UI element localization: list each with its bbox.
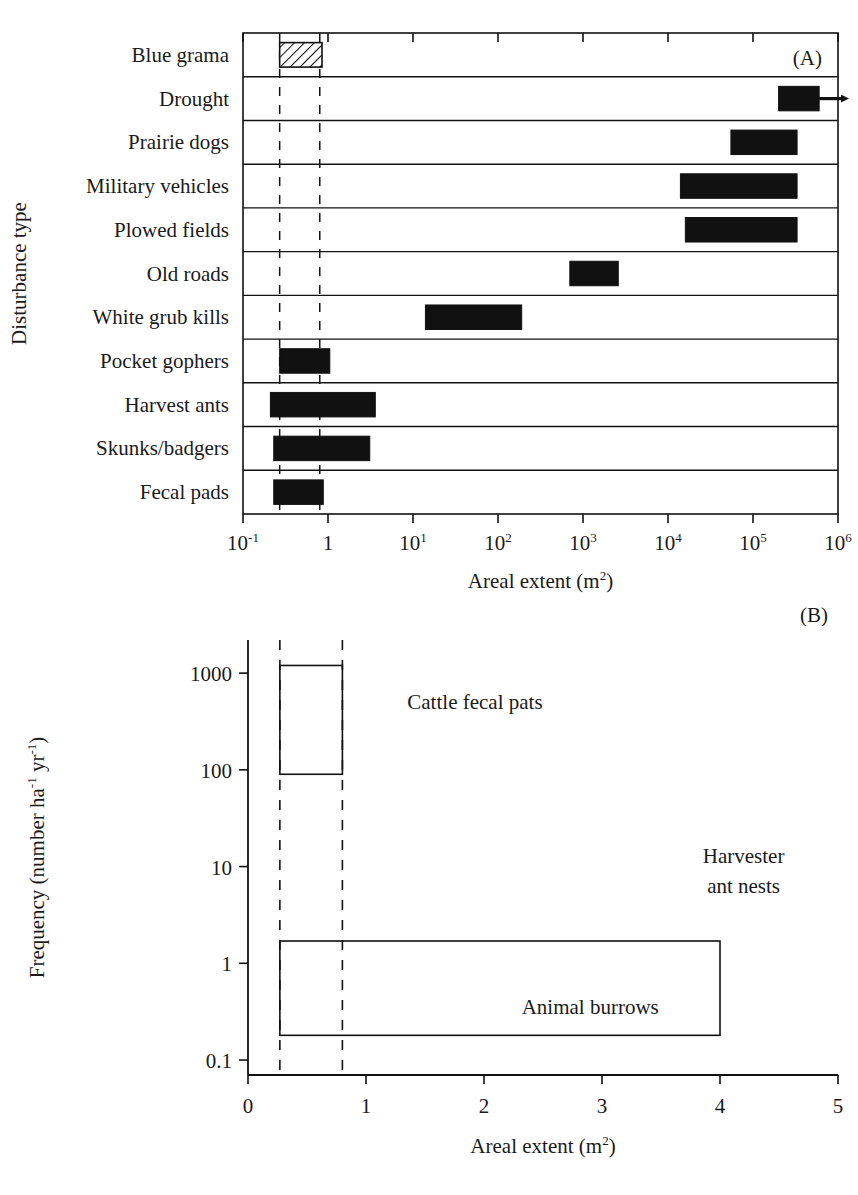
y-tick-label-4: 1000 (190, 662, 232, 686)
panel-b-yaxis-title: Frequency (number ha-1 yr-1) (24, 737, 49, 979)
category-label-7: Pocket gophers (100, 349, 229, 373)
bar-white-grub-kills (425, 305, 521, 329)
y-tick-label-0: 0.1 (206, 1049, 232, 1073)
x-tick-label: 1 (323, 531, 334, 555)
box-animal-burrows (280, 941, 720, 1035)
bar-skunks-badgers (274, 436, 370, 460)
bar-military-vehicles (680, 174, 797, 198)
category-label-2: Prairie dogs (128, 130, 229, 154)
bar-old-roads (570, 261, 618, 285)
x-tick-label: 10-1 (227, 530, 259, 555)
x-tick-label: 105 (739, 530, 767, 555)
panel-a-label: (A) (793, 46, 822, 70)
panel-a: 10-11101102103104105106Blue gramaDrought… (7, 33, 852, 593)
category-label-5: Old roads (147, 262, 229, 286)
category-label-9: Skunks/badgers (96, 436, 229, 460)
x-tick-label-3: 3 (597, 1094, 608, 1118)
figure-container: 10-11101102103104105106Blue gramaDrought… (0, 0, 858, 1195)
x-tick-label-5: 5 (833, 1094, 844, 1118)
bar-drought (779, 86, 820, 110)
category-label-6: White grub kills (93, 305, 229, 329)
bar-blue-grama (280, 43, 322, 67)
bar-harvest-ants (270, 392, 375, 416)
category-label-4: Plowed fields (114, 218, 229, 242)
x-tick-label: 103 (569, 530, 597, 555)
scientific-figure: 10-11101102103104105106Blue gramaDrought… (0, 0, 858, 1195)
y-tick-label-2: 10 (211, 856, 232, 880)
bar-fecal-pads (274, 480, 324, 504)
annotation-0: Harvester (703, 844, 785, 868)
x-tick-label: 106 (824, 530, 852, 555)
category-label-0: Blue grama (132, 43, 230, 67)
bar-pocket-gophers (280, 349, 330, 373)
bar-prairie-dogs (731, 130, 797, 154)
box-cattle-fecal-pats (280, 665, 343, 774)
box-label-0: Cattle fecal pats (407, 690, 542, 714)
x-tick-label: 101 (399, 530, 427, 555)
y-tick-label-1: 1 (222, 952, 233, 976)
panel-b: 0.11101001000012345Cattle fecal patsAnim… (24, 603, 843, 1158)
bar-plowed-fields (685, 218, 797, 242)
x-tick-label-4: 4 (715, 1094, 726, 1118)
x-tick-label-0: 0 (243, 1094, 254, 1118)
category-label-8: Harvest ants (125, 393, 229, 417)
box-label-1: Animal burrows (522, 995, 659, 1019)
annotation-0: ant nests (707, 874, 780, 898)
panel-a-xaxis-title: Areal extent (m2) (468, 568, 613, 593)
x-tick-label: 104 (654, 530, 682, 555)
category-label-10: Fecal pads (140, 480, 229, 504)
category-label-3: Military vehicles (86, 174, 229, 198)
panel-b-label: (B) (800, 603, 828, 627)
x-tick-label-2: 2 (479, 1094, 490, 1118)
x-tick-label: 102 (484, 530, 512, 555)
y-tick-label-3: 100 (201, 759, 233, 783)
x-tick-label-1: 1 (361, 1094, 372, 1118)
category-label-1: Drought (159, 87, 229, 111)
panel-b-xaxis-title: Areal extent (m2) (470, 1133, 615, 1158)
panel-a-yaxis-title: Disturbance type (7, 202, 31, 345)
